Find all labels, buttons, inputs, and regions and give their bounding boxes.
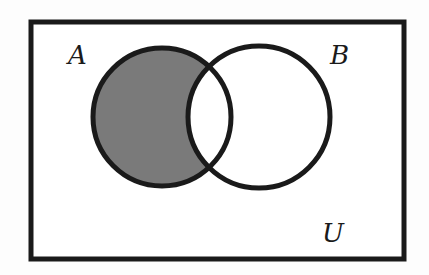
set-b-label: B — [329, 40, 349, 70]
set-a-label: A — [66, 40, 87, 70]
universe-label: U — [322, 218, 345, 248]
venn-diagram: A B U — [0, 0, 429, 275]
